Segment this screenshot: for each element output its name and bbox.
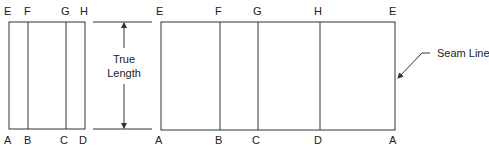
dimension-label-length: Length [107, 67, 141, 79]
right-top-label-g: G [253, 5, 262, 17]
left-top-label-e: E [4, 5, 11, 17]
seam-line-callout: Seam Line [398, 47, 489, 78]
right-pattern: E F G H E A B C D A [155, 5, 397, 146]
pattern-development-diagram: E F G H A B C D True Length E F G H E A … [0, 0, 489, 150]
right-bottom-label-d: D [314, 134, 322, 146]
left-top-label-h: H [80, 5, 88, 17]
left-bottom-label-d: D [79, 134, 87, 146]
right-top-label-h: H [314, 5, 322, 17]
right-bottom-label-a-end: A [389, 134, 397, 146]
right-bottom-label-b: B [215, 134, 222, 146]
left-top-label-f: F [24, 5, 31, 17]
right-bottom-label-a: A [155, 134, 163, 146]
right-top-label-e-end: E [389, 5, 396, 17]
right-top-label-f: F [215, 5, 222, 17]
right-pattern-outline [161, 22, 395, 130]
left-bottom-label-c: C [60, 134, 68, 146]
dimension-label-true: True [113, 53, 135, 65]
left-bottom-label-a: A [4, 134, 12, 146]
seam-line-label: Seam Line [437, 47, 489, 59]
left-top-label-g: G [61, 5, 70, 17]
left-pattern: E F G H A B C D [4, 5, 88, 146]
right-bottom-label-c: C [252, 134, 260, 146]
left-bottom-label-b: B [24, 134, 31, 146]
left-pattern-outline [9, 22, 85, 129]
right-top-label-e: E [156, 5, 163, 17]
true-length-dimension: True Length [93, 22, 152, 129]
seam-line-arrow [398, 53, 430, 78]
